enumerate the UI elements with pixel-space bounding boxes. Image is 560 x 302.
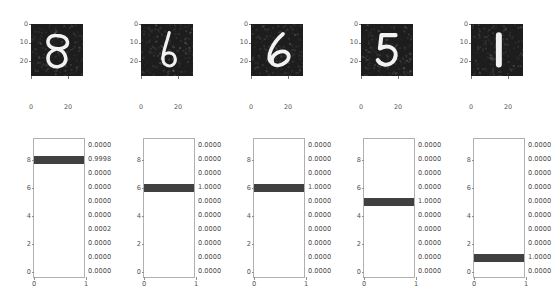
digit-image-2 — [141, 24, 193, 76]
bar-x-tick-label: 1 — [189, 281, 203, 288]
bar-y-tick-label: 8 — [125, 157, 141, 164]
digit-image-panel-1: 01020020 — [31, 24, 83, 76]
bar-y-tickmark — [362, 160, 365, 161]
bar-y-tick-label: 6 — [235, 185, 251, 192]
bar-x-tick-label: 0 — [467, 281, 481, 288]
probability-value-label: 0.0000 — [528, 142, 560, 149]
image-x-tick-label: 20 — [496, 104, 520, 110]
bar-y-tick-label: 6 — [15, 185, 31, 192]
image-x-tick-label: 0 — [459, 104, 483, 110]
bar-y-tickmark — [32, 216, 35, 217]
image-y-tickmark — [469, 43, 472, 44]
probability-value-label: 0.0000 — [528, 226, 560, 233]
probability-bar — [144, 184, 194, 193]
bar-y-tickmark — [32, 272, 35, 273]
image-x-tickmark — [398, 76, 399, 79]
image-y-tick-label: 10 — [226, 39, 248, 45]
probability-value-label: 0.0000 — [528, 170, 560, 177]
bar-y-tickmark — [472, 188, 475, 189]
image-x-tick-label: 20 — [386, 104, 410, 110]
sample-column-3: 0102002002468010.00000.00000.00000.00000… — [220, 0, 330, 302]
image-y-tickmark — [249, 43, 252, 44]
image-y-tick-label: 0 — [446, 21, 468, 27]
bar-y-tickmark — [252, 188, 255, 189]
sample-column-2: 0102002002468010.00000.00000.00000.00000… — [110, 0, 220, 302]
image-y-tick-label: 20 — [336, 58, 358, 64]
image-y-tick-label: 20 — [226, 58, 248, 64]
bar-y-tickmark — [362, 244, 365, 245]
image-x-tickmark — [141, 76, 142, 79]
digit-image-panel-4: 01020020 — [361, 24, 413, 76]
image-y-tick-label: 10 — [116, 39, 138, 45]
bar-y-tick-label: 8 — [15, 157, 31, 164]
image-x-tickmark — [471, 76, 472, 79]
bar-x-tick-label: 0 — [247, 281, 261, 288]
bar-y-tick-label: 0 — [455, 269, 471, 276]
image-x-tickmark — [508, 76, 509, 79]
bar-y-tickmark — [142, 160, 145, 161]
bar-y-tickmark — [472, 216, 475, 217]
bar-y-tick-label: 8 — [235, 157, 251, 164]
probability-chart-3: 0246801 — [253, 138, 305, 278]
probability-value-label: 1.0000 — [528, 254, 560, 261]
image-y-tickmark — [469, 24, 472, 25]
image-x-tick-label: 0 — [129, 104, 153, 110]
image-y-tick-label: 10 — [6, 39, 28, 45]
bar-y-tickmark — [472, 160, 475, 161]
bar-x-tick-label: 0 — [137, 281, 151, 288]
bar-x-tick-label: 0 — [357, 281, 371, 288]
probability-chart-2: 0246801 — [143, 138, 195, 278]
bar-y-tick-label: 2 — [235, 241, 251, 248]
digit-image-panel-2: 01020020 — [141, 24, 193, 76]
bar-y-tick-label: 4 — [15, 213, 31, 220]
probability-value-label: 0.0000 — [528, 156, 560, 163]
image-y-tickmark — [249, 61, 252, 62]
bar-y-tickmark — [362, 188, 365, 189]
bar-plot-area — [254, 139, 304, 277]
bar-y-tickmark — [472, 272, 475, 273]
probability-value-label: 0.0000 — [528, 198, 560, 205]
sample-column-4: 0102002002468010.00000.00000.00000.00000… — [330, 0, 440, 302]
probability-value-label: 0.0000 — [528, 212, 560, 219]
bar-y-tickmark — [252, 272, 255, 273]
image-y-tick-label: 0 — [116, 21, 138, 27]
image-x-tickmark — [288, 76, 289, 79]
bar-y-tick-label: 2 — [125, 241, 141, 248]
probability-value-label: 0.0000 — [528, 184, 560, 191]
image-x-tickmark — [361, 76, 362, 79]
bar-plot-area — [474, 139, 524, 277]
image-y-tick-label: 0 — [336, 21, 358, 27]
digit-image-panel-5: 01020020 — [471, 24, 523, 76]
image-x-tickmark — [178, 76, 179, 79]
bar-y-tickmark — [32, 160, 35, 161]
image-x-tickmark — [31, 76, 32, 79]
image-y-tickmark — [29, 43, 32, 44]
image-y-tick-label: 0 — [226, 21, 248, 27]
bar-y-tickmark — [142, 272, 145, 273]
image-y-tickmark — [469, 61, 472, 62]
bar-y-tickmark — [362, 272, 365, 273]
sample-column-1: 0102002002468010.00000.00000.00000.00020… — [0, 0, 110, 302]
bar-y-tick-label: 8 — [455, 157, 471, 164]
bar-y-tick-label: 6 — [455, 185, 471, 192]
digit-image-5 — [471, 24, 523, 76]
bar-y-tick-label: 0 — [345, 269, 361, 276]
image-x-tick-label: 20 — [276, 104, 300, 110]
image-y-tickmark — [139, 61, 142, 62]
bar-y-tickmark — [472, 244, 475, 245]
bar-y-tick-label: 4 — [235, 213, 251, 220]
bar-y-tickmark — [142, 244, 145, 245]
digit-image-3 — [251, 24, 303, 76]
digit-image-panel-3: 01020020 — [251, 24, 303, 76]
image-x-tickmark — [251, 76, 252, 79]
probability-value-label: 0.0000 — [528, 268, 560, 275]
sample-column-5: 0102002002468010.00001.00000.00000.00000… — [440, 0, 550, 302]
bar-plot-area — [34, 139, 84, 277]
image-y-tick-label: 10 — [446, 39, 468, 45]
bar-y-tick-label: 0 — [235, 269, 251, 276]
bar-x-tick-label: 1 — [409, 281, 423, 288]
bar-y-tickmark — [32, 244, 35, 245]
digit-image-4 — [361, 24, 413, 76]
bar-y-tickmark — [362, 216, 365, 217]
bar-y-tickmark — [142, 188, 145, 189]
